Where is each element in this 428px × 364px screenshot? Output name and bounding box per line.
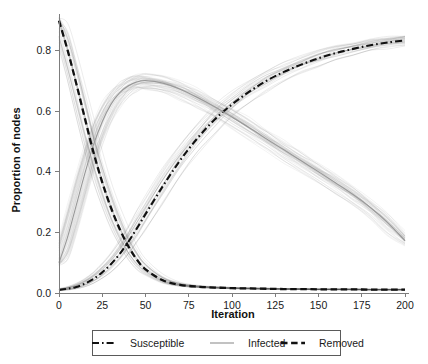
y-axis-title: Proportion of nodes — [10, 107, 22, 212]
series-lines — [59, 21, 405, 290]
ensemble-run-susceptible — [59, 39, 405, 290]
chart-figure: 0255075100125150175200 0.00.20.40.60.8 I… — [0, 0, 428, 364]
ensemble-run-removed — [59, 21, 405, 290]
ensemble-run-removed — [59, 22, 405, 290]
ensemble-run-removed — [59, 28, 405, 290]
ensemble-run-removed — [59, 23, 405, 290]
ensemble-run-susceptible — [59, 38, 405, 290]
y-tick-label: 0.6 — [36, 105, 51, 117]
axes — [58, 14, 409, 293]
x-tick-label: 150 — [310, 299, 328, 311]
ensemble-run-removed — [59, 22, 405, 289]
x-tick-label: 75 — [183, 299, 195, 311]
ensemble-run-removed — [59, 17, 405, 289]
y-axis-ticks: 0.00.20.40.60.8 — [36, 44, 59, 299]
ensemble-run-removed — [59, 32, 405, 290]
legend-label-infected: Infected — [248, 337, 286, 349]
ensemble-run-susceptible — [59, 39, 405, 289]
y-tick-label: 0.4 — [36, 165, 51, 177]
ensemble-run-susceptible — [59, 38, 405, 289]
ensemble-run-removed — [59, 22, 405, 289]
ensemble-run-susceptible — [59, 36, 405, 288]
legend-label-removed: Removed — [319, 337, 364, 349]
ensemble-run-susceptible — [59, 37, 405, 289]
y-tick-label: 0.0 — [36, 287, 51, 299]
chart-legend: SusceptibleInfectedRemoved — [92, 331, 364, 356]
x-tick-label: 125 — [266, 299, 284, 311]
x-tick-label: 50 — [140, 299, 152, 311]
ensemble-run-susceptible — [59, 37, 405, 289]
y-tick-label: 0.8 — [36, 44, 51, 56]
ensemble-run-removed — [59, 36, 405, 289]
ensemble-run-removed — [59, 21, 405, 290]
ensemble-run-removed — [59, 23, 405, 289]
ensemble-run-susceptible — [59, 36, 405, 289]
ensemble-run-removed — [59, 18, 405, 289]
x-tick-label: 0 — [56, 299, 62, 311]
ensemble-run-susceptible — [59, 36, 405, 289]
ensemble-run-removed — [59, 21, 405, 290]
sir-epidemic-line-chart: 0255075100125150175200 0.00.20.40.60.8 I… — [0, 0, 428, 364]
ensemble-run-removed — [59, 17, 405, 289]
x-axis-title: Iteration — [211, 308, 255, 320]
y-tick-label: 0.2 — [36, 226, 51, 238]
ensemble-run-removed — [59, 19, 405, 290]
ensemble-run-removed — [59, 36, 405, 290]
ensemble-run-removed — [59, 38, 405, 290]
legend-label-susceptible: Susceptible — [130, 337, 184, 349]
ensemble-run-removed — [59, 23, 405, 290]
ensemble-run-susceptible — [59, 37, 405, 289]
ensemble-bands — [59, 17, 405, 290]
x-tick-label: 200 — [396, 299, 414, 311]
ensemble-run-removed — [59, 24, 405, 290]
ensemble-run-removed — [59, 37, 405, 290]
x-tick-label: 25 — [96, 299, 108, 311]
ensemble-run-removed — [59, 18, 405, 289]
x-tick-label: 175 — [353, 299, 371, 311]
ensemble-run-removed — [59, 19, 405, 290]
series-line-removed — [59, 21, 405, 290]
ensemble-run-susceptible — [59, 37, 405, 289]
